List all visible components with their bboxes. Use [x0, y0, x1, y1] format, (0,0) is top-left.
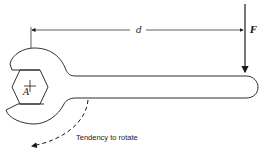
force-label: F [249, 25, 257, 35]
distance-label: d [136, 25, 142, 35]
pivot-label: A [22, 87, 30, 97]
rotation-label: Tendency to rotate [76, 133, 138, 142]
wrench-torque-diagram: A d F Tendency to rotate [0, 0, 264, 156]
wrench [6, 48, 258, 124]
